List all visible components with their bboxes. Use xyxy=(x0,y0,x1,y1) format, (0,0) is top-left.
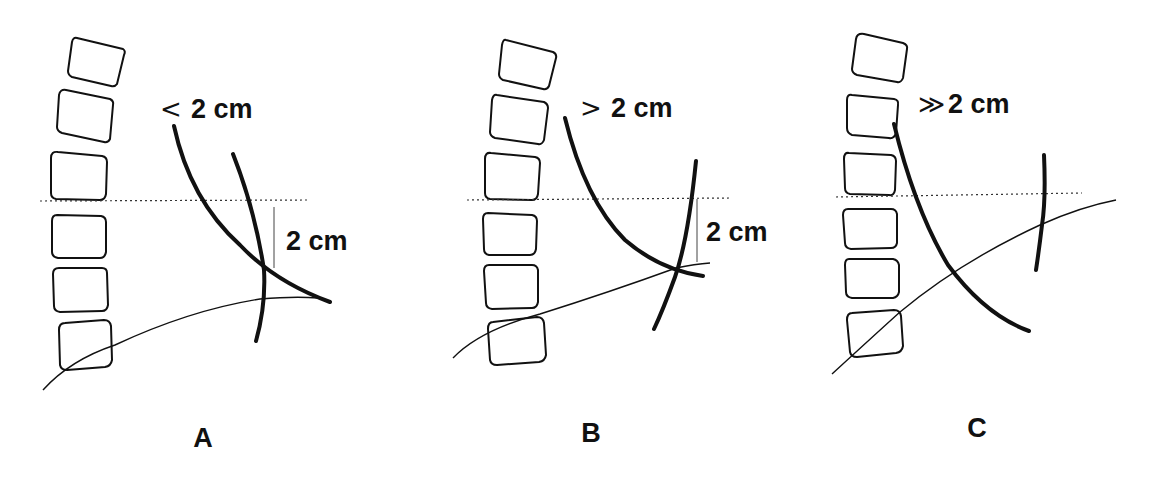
vertebra xyxy=(844,153,896,195)
vertebra xyxy=(483,213,537,255)
vertebra xyxy=(485,153,540,200)
top-label-c: ≫ 2 cm xyxy=(918,89,1010,119)
thin-curve-b xyxy=(453,263,710,358)
vertebra xyxy=(488,317,546,365)
thick-curve-a-2 xyxy=(233,154,264,341)
vertebra xyxy=(57,90,113,142)
spine-curve-diagram: < 2 cm 2 cm A > 2 cm 2 cm B xyxy=(0,0,1162,477)
vertebra xyxy=(490,95,548,144)
top-label-a: < 2 cm xyxy=(160,94,253,124)
top-distance-label-c: 2 cm xyxy=(948,89,1010,119)
panel-letter-c: C xyxy=(967,413,987,443)
relation-symbol-c: ≫ xyxy=(918,89,945,119)
panel-letter-a: A xyxy=(193,423,213,453)
side-distance-label-b: 2 cm xyxy=(706,217,768,247)
vertebra xyxy=(845,259,899,298)
vertebra xyxy=(68,38,125,86)
vertebra xyxy=(499,40,556,89)
vertebrae-column-b xyxy=(483,40,556,365)
panel-a: < 2 cm 2 cm A xyxy=(40,38,348,453)
top-label-b: > 2 cm xyxy=(580,93,673,123)
panel-letter-b: B xyxy=(581,418,601,448)
top-distance-label-b: 2 cm xyxy=(611,93,673,123)
vertebra xyxy=(59,320,112,370)
vertebra xyxy=(847,95,898,138)
thick-curve-c-2 xyxy=(1036,155,1045,270)
thick-curve-b-2 xyxy=(654,161,696,329)
thin-curve-c xyxy=(832,200,1116,374)
panel-b: > 2 cm 2 cm B xyxy=(453,40,768,448)
vertebra xyxy=(484,265,538,309)
panel-c: ≫ 2 cm C xyxy=(832,34,1116,443)
side-distance-label-a: 2 cm xyxy=(286,226,348,256)
vertebra xyxy=(843,209,897,249)
vertebra xyxy=(52,215,106,258)
vertebra xyxy=(51,152,107,200)
relation-symbol-b: > xyxy=(580,93,602,123)
vertebra xyxy=(852,34,907,82)
top-distance-label-a: 2 cm xyxy=(191,94,253,124)
relation-symbol-a: < xyxy=(160,94,182,124)
vertebrae-column-a xyxy=(51,38,125,370)
vertebra xyxy=(53,268,108,312)
